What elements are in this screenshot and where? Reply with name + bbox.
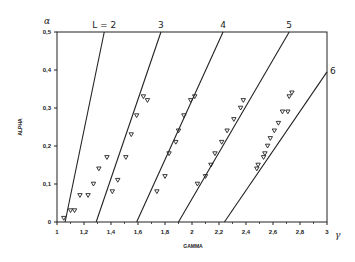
triangle-marker (68, 209, 72, 213)
triangle-marker (91, 182, 95, 186)
x-tick-label: 2,4 (242, 229, 251, 235)
y-tick-label: 0,2 (43, 143, 52, 149)
x-tick-label: 2,6 (269, 229, 278, 235)
triangle-marker (72, 209, 76, 213)
triangle-marker (238, 106, 242, 110)
triangle-marker (220, 140, 224, 144)
x-axis-title: GAMMA (183, 243, 203, 249)
triangle-marker (286, 110, 290, 114)
plot-frame (57, 32, 327, 222)
line-L4 (137, 32, 223, 222)
triangle-marker (105, 156, 109, 160)
triangle-marker (261, 156, 265, 160)
triangle-marker (195, 182, 199, 186)
line-label: 3 (158, 20, 164, 30)
triangle-marker (263, 152, 267, 156)
line-label: 6 (330, 66, 336, 76)
x-tick-label: 1 (55, 229, 59, 235)
triangle-marker (163, 175, 167, 179)
triangle-marker (188, 99, 192, 103)
line-label: 5 (286, 20, 292, 30)
plot-border (57, 32, 327, 222)
y-axis-symbol: α (44, 16, 50, 26)
x-axis: 11,21,41,61,822,22,42,62,83 (55, 222, 329, 235)
triangle-marker (116, 178, 120, 182)
y-tick-label: 0,1 (43, 181, 52, 187)
triangle-marker (213, 152, 217, 156)
triangle-marker (232, 118, 236, 122)
triangle-marker (155, 190, 159, 194)
triangle-marker (174, 140, 178, 144)
line-L3 (96, 32, 161, 222)
line-label: L = 2 (92, 20, 116, 30)
x-tick-label: 3 (325, 229, 329, 235)
line-L5 (179, 32, 290, 222)
triangle-marker (265, 144, 269, 148)
x-tick-label: 2 (190, 229, 194, 235)
line-L6 (224, 72, 327, 222)
triangle-marker (145, 99, 149, 103)
line-L2 (65, 32, 104, 222)
triangle-marker (97, 167, 101, 171)
triangle-marker (129, 133, 133, 137)
triangle-marker (225, 129, 229, 133)
y-tick-label: 0,4 (43, 67, 52, 73)
triangle-marker (182, 114, 186, 118)
triangle-marker (276, 121, 280, 125)
triangle-marker (86, 194, 90, 198)
triangle-marker (110, 190, 114, 194)
triangle-marker (134, 114, 138, 118)
triangle-marker (287, 95, 291, 99)
triangle-marker (255, 167, 259, 171)
x-tick-label: 1,6 (134, 229, 143, 235)
x-tick-label: 2,8 (296, 229, 305, 235)
y-tick-label: 0,3 (43, 105, 52, 111)
line-label: 4 (220, 20, 226, 30)
y-tick-label: 0 (48, 219, 52, 225)
data-points (62, 91, 295, 220)
triangle-marker (280, 110, 284, 114)
y-axis-title: ALPHA (17, 118, 23, 136)
triangle-marker (256, 163, 260, 167)
x-axis-symbol: γ (335, 230, 341, 240)
triangle-marker (124, 156, 128, 160)
reference-lines: L = 23456 (65, 20, 336, 222)
triangle-marker (290, 91, 294, 95)
triangle-marker (268, 137, 272, 141)
x-tick-label: 2,2 (215, 229, 224, 235)
y-tick-label: 0,5 (43, 29, 52, 35)
x-tick-label: 1,8 (161, 229, 170, 235)
triangle-marker (272, 129, 276, 133)
triangle-marker (209, 163, 213, 167)
y-axis: 00,10,20,30,40,5 (43, 29, 57, 225)
triangle-marker (78, 194, 82, 198)
x-tick-label: 1,4 (107, 229, 116, 235)
x-tick-label: 1,2 (80, 229, 89, 235)
triangle-marker (241, 99, 245, 103)
chart: 11,21,41,61,822,22,42,62,83 00,10,20,30,… (0, 0, 355, 262)
triangle-marker (141, 95, 145, 99)
